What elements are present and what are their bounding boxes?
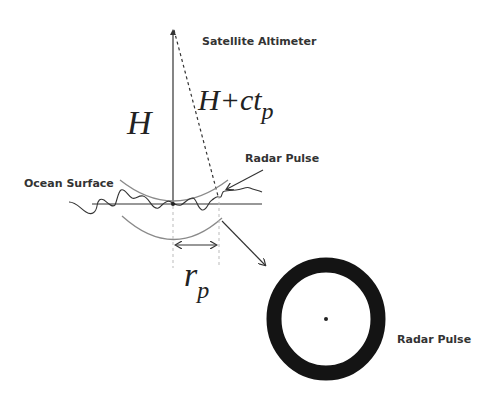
radar-pulse-label-top: Radar Pulse bbox=[245, 152, 319, 165]
radar-pulse-pointer-top bbox=[227, 170, 263, 189]
height-symbol: H bbox=[126, 104, 154, 141]
altimeter-diagram: Satellite Altimeter Ocean Surface Radar … bbox=[0, 0, 489, 400]
slant-range-subscript: p bbox=[260, 98, 274, 124]
footprint-pointer bbox=[222, 221, 265, 265]
satellite-altimeter-label: Satellite Altimeter bbox=[202, 35, 317, 48]
slant-range-symbol: H+ctp bbox=[197, 83, 274, 124]
slant-range-base: H+ct bbox=[197, 83, 262, 116]
nadir-point bbox=[171, 202, 175, 206]
ocean-surface-label: Ocean Surface bbox=[24, 177, 114, 190]
footprint-center-dot bbox=[324, 317, 328, 321]
radius-subscript: p bbox=[195, 277, 209, 303]
diagram-canvas: Satellite Altimeter Ocean Surface Radar … bbox=[0, 0, 489, 400]
radius-base: r bbox=[184, 256, 198, 293]
pulse-arc-lower bbox=[122, 216, 222, 240]
radar-pulse-label-bottom: Radar Pulse bbox=[397, 333, 471, 346]
radius-symbol: rp bbox=[184, 256, 209, 303]
